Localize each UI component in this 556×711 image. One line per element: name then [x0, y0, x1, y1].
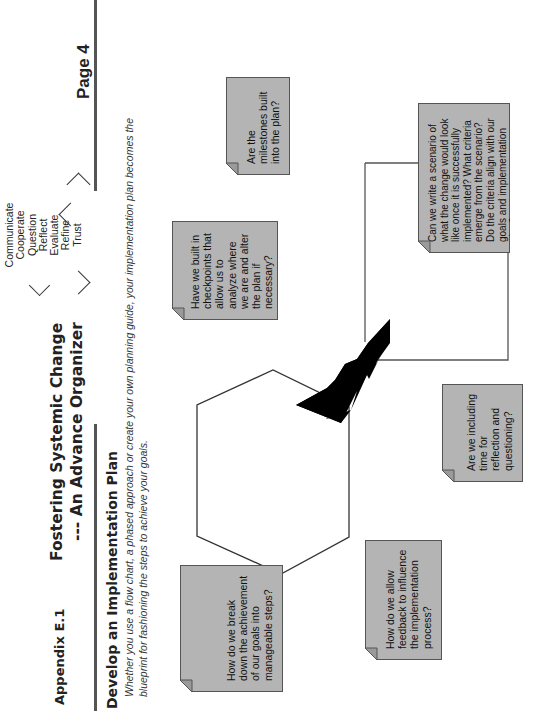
- connector-line: [360, 253, 508, 360]
- note-text: Are the milestones built into the plan?: [245, 92, 281, 164]
- note-break-down: How do we break down the achievement of …: [180, 565, 283, 692]
- lightning-bolt-icon: [296, 319, 390, 423]
- page-subtitle: --- An Advance Organizer: [68, 322, 86, 541]
- page-title: Fostering Systemic Change: [48, 323, 66, 561]
- page-number: Page 4: [74, 44, 94, 99]
- note-text: How do we break down the achievement of …: [225, 576, 274, 681]
- note-checkpoints: Have we built in checkpoints that allow …: [172, 221, 278, 320]
- note-text: Have we built in checkpoints that allow …: [189, 233, 274, 309]
- header-divider: [94, 424, 97, 711]
- note-feedback: How do we allow feedback to influence th…: [365, 540, 442, 660]
- note-text: Are we including time for reflection and…: [465, 394, 514, 471]
- note-scenario: Can we write a scenario of what the chan…: [418, 103, 510, 253]
- intro-line: blueprint for fashioning the steps to ac…: [136, 37, 150, 697]
- section-intro: Whether you use a flow chart, a phased a…: [122, 37, 150, 697]
- section-title: Develop an Implementation Plan: [104, 451, 120, 709]
- note-milestones: Are the milestones built into the plan?: [226, 77, 290, 175]
- document-page: Appendix E.1 Fostering Systemic Change -…: [0, 0, 556, 711]
- lightning-bolt-icon: [296, 319, 390, 423]
- header-divider: [94, 0, 97, 191]
- appendix-label: Appendix E.1: [52, 609, 67, 705]
- values-list: Communicate Cooperate Question Reflect E…: [4, 185, 83, 285]
- note-text: Can we write a scenario of what the chan…: [427, 118, 519, 242]
- value-item: Cooperate: [15, 185, 26, 285]
- note-reflection: Are we including time for reflection and…: [442, 384, 523, 482]
- note-text: How do we allow feedback to influence th…: [384, 550, 433, 649]
- hexagon-shape: [197, 370, 349, 574]
- intro-line: Whether you use a flow chart, a phased a…: [122, 37, 136, 697]
